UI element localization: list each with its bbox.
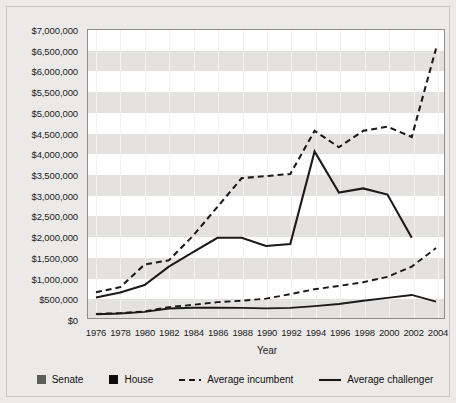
x-axis-title: Year [87,345,447,356]
y-tick-label: $6,500,000 [31,45,78,56]
x-tick-label: 1996 [330,327,350,338]
plot-area [87,29,445,319]
x-tick-label: 1976 [86,327,106,338]
y-tick-label: $500,000 [39,294,78,305]
y-tick-label: $3,500,000 [31,170,78,181]
y-tick-label: $0 [68,315,78,326]
figure-frame: $0$500,000$1,000,000$1,500,000$2,000,000… [6,6,450,397]
solid-line-swatch-icon [319,375,341,384]
x-tick-label: 2000 [379,327,399,338]
legend-label: House [124,374,153,385]
y-tick-label: $1,000,000 [31,273,78,284]
square-swatch-icon [37,375,46,384]
square-swatch-icon [109,375,118,384]
y-tick-label: $6,000,000 [31,66,78,77]
x-tick-label: 1980 [135,327,155,338]
legend-item-average-challenger[interactable]: Average challenger [319,374,433,385]
x-axis-labels: 1976197819801982198419861988199019921994… [87,327,447,343]
y-tick-label: $3,000,000 [31,190,78,201]
y-tick-label: $7,000,000 [31,25,78,36]
x-tick-label: 2002 [403,327,423,338]
y-axis-labels: $0$500,000$1,000,000$1,500,000$2,000,000… [7,7,81,327]
x-tick-label: 1988 [232,327,252,338]
legend-item-average-incumbent[interactable]: Average incumbent [179,374,293,385]
series-line-1 [96,151,412,297]
x-tick-label: 1986 [208,327,228,338]
legend-label: Senate [52,374,84,385]
chart-figure: $0$500,000$1,000,000$1,500,000$2,000,000… [0,0,456,403]
x-tick-label: 1992 [281,327,301,338]
dashed-line-swatch-icon [179,375,201,384]
series-line-0 [96,49,436,293]
y-tick-label: $2,500,000 [31,211,78,222]
series-lines [88,30,444,318]
x-tick-label: 1998 [355,327,375,338]
x-tick-label: 1984 [184,327,204,338]
x-tick-label: 1982 [159,327,179,338]
y-tick-label: $4,000,000 [31,149,78,160]
x-tick-label: 2004 [428,327,448,338]
legend-label: Average incumbent [207,374,293,385]
x-tick-label: 1994 [306,327,326,338]
chart-legend: SenateHouseAverage incumbentAverage chal… [14,367,456,391]
series-line-2 [96,248,436,314]
y-tick-label: $5,000,000 [31,107,78,118]
legend-item-house[interactable]: House [109,374,153,385]
y-tick-label: $2,000,000 [31,232,78,243]
y-tick-label: $5,500,000 [31,87,78,98]
y-tick-label: $1,500,000 [31,252,78,263]
y-tick-label: $4,500,000 [31,128,78,139]
legend-item-senate[interactable]: Senate [37,374,84,385]
plot-wrapper [87,22,447,325]
x-tick-label: 1978 [110,327,130,338]
legend-label: Average challenger [347,374,433,385]
x-tick-label: 1990 [257,327,277,338]
